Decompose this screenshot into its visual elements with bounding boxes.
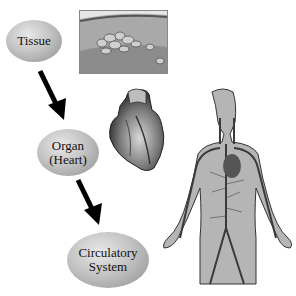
tissue-micrograph-image xyxy=(79,10,168,74)
human-body-circulatory-illustration xyxy=(160,88,296,296)
